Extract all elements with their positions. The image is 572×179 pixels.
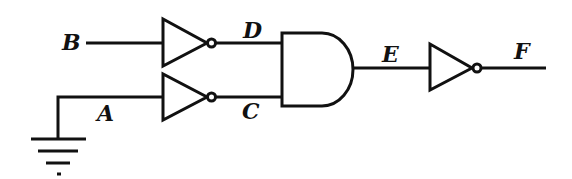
label-a: A	[95, 100, 114, 126]
ground-icon	[31, 139, 86, 174]
label-d: D	[242, 17, 262, 43]
and-gate-icon	[282, 33, 353, 106]
label-e: E	[381, 41, 400, 67]
logic-circuit-diagram: B D A C E F	[0, 0, 572, 179]
not-gate-a-icon	[163, 74, 216, 120]
not-gate-b-icon	[163, 19, 216, 66]
label-b: B	[61, 29, 81, 55]
label-c: C	[242, 98, 260, 124]
not-gate-e-icon	[430, 44, 481, 90]
label-f: F	[513, 38, 531, 64]
